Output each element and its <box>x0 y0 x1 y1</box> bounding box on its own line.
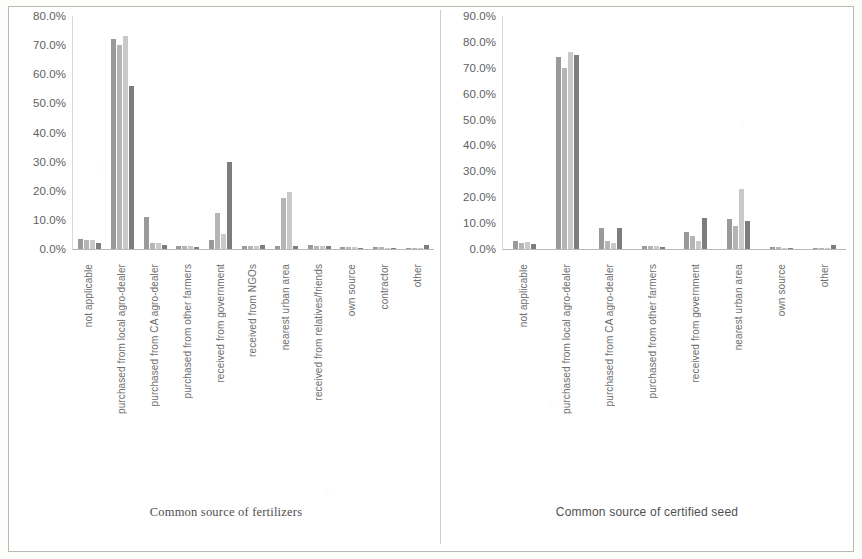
bar <box>513 241 518 249</box>
bar <box>733 226 738 249</box>
bar-cluster <box>139 16 172 249</box>
bar <box>385 248 390 249</box>
bar <box>654 246 659 249</box>
y-axis-tick-label: 30.0% <box>463 166 496 177</box>
x-axis-label-cell: nearest urban area <box>269 264 302 494</box>
bar <box>188 246 193 249</box>
y-axis-tick-label: 10.0% <box>463 218 496 229</box>
bar <box>813 248 818 249</box>
y-axis-tick-label: 50.0% <box>33 98 66 109</box>
x-axis-labels-fertilizers: not applicablepurchased from local agro-… <box>72 264 434 494</box>
bar <box>248 246 253 249</box>
bar <box>611 243 616 249</box>
bar <box>418 248 423 249</box>
bar-cluster <box>303 16 336 249</box>
bar <box>275 246 280 249</box>
bar-cluster <box>803 16 846 249</box>
bar <box>260 245 265 249</box>
bar <box>242 246 247 249</box>
bar <box>182 246 187 249</box>
x-axis-tick-label: own source <box>346 264 357 316</box>
x-axis-label-cell: own source <box>335 264 368 494</box>
x-axis-label-cell: nearest urban area <box>717 264 760 494</box>
bar <box>788 248 793 249</box>
x-axis-label-cell: purchased from local agro-dealer <box>545 264 588 494</box>
x-axis-tick-label: purchased from CA agro-dealer <box>149 264 160 406</box>
bar <box>293 246 298 249</box>
x-axis-labels-certified-seed: not applicablepurchased from local agro-… <box>502 264 846 494</box>
x-axis-label-cell: other <box>803 264 846 494</box>
bar <box>690 236 695 249</box>
x-axis-tick-label: not applicable <box>518 264 529 327</box>
bar <box>352 247 357 249</box>
bar <box>702 218 707 249</box>
bar <box>156 243 161 249</box>
x-axis-tick-label: received from government <box>690 264 701 383</box>
bar-cluster <box>237 16 270 249</box>
x-axis-label-cell: purchased from other farmers <box>171 264 204 494</box>
bar <box>281 198 286 249</box>
y-axis-certified-seed: 90.0%80.0%70.0%60.0%50.0%40.0%30.0%20.0%… <box>444 10 500 258</box>
x-axis-label-cell: other <box>401 264 434 494</box>
bar-cluster <box>204 16 237 249</box>
bar <box>776 247 781 249</box>
bar-cluster <box>336 16 369 249</box>
bar <box>287 192 292 249</box>
bar <box>696 241 701 249</box>
bar-cluster <box>73 16 106 249</box>
bar <box>391 248 396 249</box>
y-axis-tick-label: 50.0% <box>463 114 496 125</box>
bar <box>727 219 732 249</box>
chart-certified-seed: 90.0%80.0%70.0%60.0%50.0%40.0%30.0%20.0%… <box>444 10 850 538</box>
bars-region-fertilizers <box>72 16 434 250</box>
plot-area-certified-seed: 90.0%80.0%70.0%60.0%50.0%40.0%30.0%20.0%… <box>444 10 850 258</box>
bar <box>770 247 775 249</box>
y-axis-tick-label: 20.0% <box>463 192 496 203</box>
x-axis-tick-label: contractor <box>379 264 390 309</box>
x-axis-tick-label: received from government <box>215 264 226 383</box>
x-axis-title-fertilizers: Common source of fertilizers <box>14 505 438 520</box>
x-axis-label-cell: purchased from local agro-dealer <box>105 264 138 494</box>
y-axis-tick-label: 80.0% <box>33 11 66 22</box>
y-axis-tick-label: 60.0% <box>33 69 66 80</box>
bar <box>129 86 134 249</box>
bar <box>96 243 101 249</box>
x-axis-label-cell: received from government <box>204 264 237 494</box>
figure-page: 80.0%70.0%60.0%50.0%40.0%30.0%20.0%10.0%… <box>0 0 862 559</box>
bar <box>227 162 232 249</box>
x-axis-tick-label: purchased from local agro-dealer <box>116 264 127 414</box>
bar-cluster <box>546 16 589 249</box>
bar <box>684 232 689 249</box>
bar-cluster <box>632 16 675 249</box>
y-axis-tick-label: 20.0% <box>33 185 66 196</box>
bar <box>78 239 83 249</box>
bar <box>617 228 622 249</box>
bar <box>123 36 128 249</box>
bar-cluster <box>760 16 803 249</box>
bar <box>406 248 411 249</box>
plot-area-fertilizers: 80.0%70.0%60.0%50.0%40.0%30.0%20.0%10.0%… <box>14 10 438 258</box>
y-axis-tick-label: 60.0% <box>463 88 496 99</box>
x-axis-label-cell: purchased from CA agro-dealer <box>138 264 171 494</box>
bar <box>568 52 573 249</box>
y-axis-tick-label: 90.0% <box>463 11 496 22</box>
y-axis-tick-label: 0.0% <box>469 244 496 255</box>
bar <box>531 244 536 249</box>
x-axis-tick-label: purchased from local agro-dealer <box>561 264 572 414</box>
bar-cluster <box>717 16 760 249</box>
x-axis-label-cell: own source <box>760 264 803 494</box>
bar <box>346 247 351 249</box>
bar <box>340 247 345 249</box>
bar <box>819 248 824 249</box>
bar <box>90 240 95 249</box>
x-axis-label-cell: not applicable <box>502 264 545 494</box>
bar-cluster <box>675 16 718 249</box>
bar <box>424 245 429 249</box>
bar <box>176 246 181 249</box>
bar <box>254 246 259 249</box>
bar-cluster <box>503 16 546 249</box>
bar <box>150 243 155 249</box>
x-axis-label-cell: purchased from other farmers <box>631 264 674 494</box>
x-axis-tick-label: own source <box>776 264 787 316</box>
bar-cluster <box>270 16 303 249</box>
